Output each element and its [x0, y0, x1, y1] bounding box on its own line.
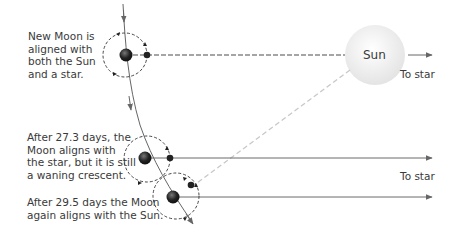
label-line: and a star. [28, 68, 96, 81]
earth-27-days [139, 152, 152, 165]
label-line: New Moon is [28, 30, 96, 43]
label-line: After 27.3 days, the [27, 131, 136, 144]
earth-new-moon [120, 49, 133, 62]
label-line: a waning crescent. [27, 169, 136, 182]
label-line: Moon aligns with [27, 144, 136, 157]
orbit-arrow-mid [129, 96, 131, 110]
earth-29-days [167, 191, 180, 204]
sun-to-moon-dashed-line [193, 70, 350, 186]
label-line: the star, but it is still [27, 156, 136, 169]
label-after-27-days: After 27.3 days, the Moon aligns with th… [27, 131, 136, 181]
to-star-label-top: To star [400, 68, 435, 81]
label-line: both the Sun [28, 55, 96, 68]
moon-new [144, 52, 151, 59]
orbit-arrow-end [186, 214, 193, 224]
sun-label: Sun [363, 49, 386, 62]
to-star-label-bottom: To star [400, 170, 435, 183]
label-line: After 29.5 days the Moon [27, 196, 163, 209]
moon-29-days [188, 182, 195, 189]
label-new-moon: New Moon is aligned with both the Sun an… [28, 30, 96, 80]
label-after-29-days: After 29.5 days the Moon again aligns wi… [27, 196, 163, 221]
moon-27-days [167, 155, 174, 162]
orbit-arrow-top [124, 10, 125, 22]
earth-orbit-path [123, 4, 192, 222]
label-line: again aligns with the Sun. [27, 209, 163, 222]
label-line: aligned with [28, 43, 96, 56]
